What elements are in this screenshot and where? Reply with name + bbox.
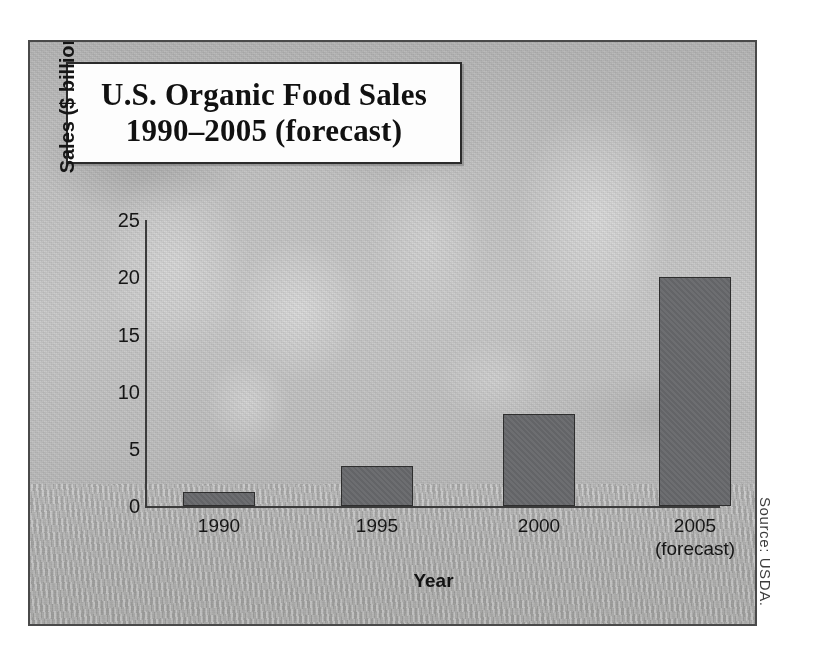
y-tick-5: 5	[92, 438, 140, 461]
bar-slot-1990	[149, 220, 289, 506]
x-label-1995-text: 1995	[356, 515, 398, 536]
y-axis-title: Sales ($ billion)	[56, 40, 79, 220]
x-label-2005: 2005 (forecast)	[620, 514, 757, 560]
x-label-1990-text: 1990	[198, 515, 240, 536]
bar-2005[interactable]	[659, 277, 731, 506]
bar-series	[147, 220, 720, 506]
y-axis-tick-labels: 25 20 15 10 5 0	[90, 42, 140, 624]
x-axis-tick-labels: 1990 1995 2000 2005 (forecast)	[147, 514, 720, 574]
bar-2000[interactable]	[503, 414, 575, 506]
x-label-2005-text: 2005	[674, 515, 716, 536]
bar-1990[interactable]	[183, 492, 255, 506]
x-label-2005-sublabel: (forecast)	[620, 537, 757, 560]
x-label-2000: 2000	[464, 514, 614, 537]
y-tick-10: 10	[92, 381, 140, 404]
bar-slot-2005	[625, 220, 757, 506]
x-axis-line	[145, 506, 720, 508]
y-tick-15: 15	[92, 324, 140, 347]
bar-slot-1995	[307, 220, 447, 506]
x-label-2000-text: 2000	[518, 515, 560, 536]
y-tick-20: 20	[92, 266, 140, 289]
plot-area: Sales ($ billion) 25 20 15 10 5 0	[30, 42, 755, 624]
y-tick-0: 0	[92, 495, 140, 518]
bar-slot-2000	[469, 220, 609, 506]
bar-1995[interactable]	[341, 466, 413, 506]
source-note: Source: USDA.	[757, 497, 774, 607]
x-label-1995: 1995	[302, 514, 452, 537]
chart-figure: U.S. Organic Food Sales 1990–2005 (forec…	[28, 40, 757, 626]
x-label-1990: 1990	[144, 514, 294, 537]
y-tick-25: 25	[92, 209, 140, 232]
x-axis-title: Year	[147, 570, 720, 592]
